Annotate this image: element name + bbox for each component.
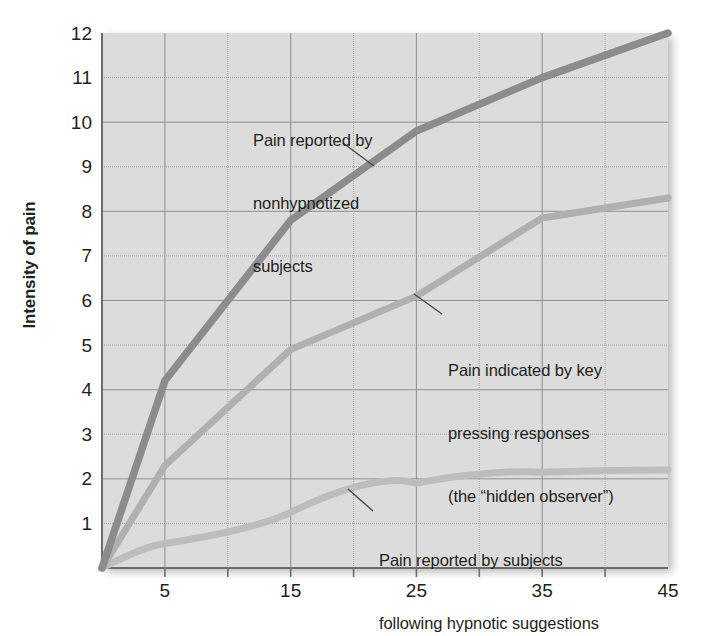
x-tick-15: 15 [271, 581, 311, 600]
annotation-nonhypnotized-line2: nonhypnotized [253, 193, 372, 214]
annotation-hypnotic-line1: Pain reported by subjects [379, 550, 599, 571]
x-tick-5: 5 [145, 581, 185, 600]
annotation-hidden-observer-line1: Pain indicated by key [448, 360, 614, 381]
annotation-hypnotic-line2: following hypnotic suggestions [379, 613, 599, 634]
annotation-hidden-observer-line3: (the “hidden observer”) [448, 486, 614, 507]
annotation-hypnotic-suggestions: Pain reported by subjects following hypn… [379, 508, 599, 636]
annotation-nonhypnotized-subjects: Pain reported by nonhypnotized subjects [253, 88, 372, 319]
annotation-nonhypnotized-line3: subjects [253, 256, 372, 277]
annotation-nonhypnotized-line1: Pain reported by [253, 130, 372, 151]
x-tick-45: 45 [648, 581, 688, 600]
annotation-hidden-observer-line2: pressing responses [448, 423, 614, 444]
